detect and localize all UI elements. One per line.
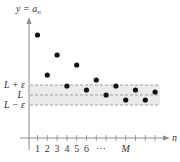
lower-bound-label: L − ε [3,99,25,110]
y-axis-arrow-icon [27,17,32,24]
data-point [104,92,109,97]
x-tick-label: M [121,143,131,154]
data-point [94,77,99,82]
x-tick-label: 1 [35,143,40,154]
x-tick-label: 3 [55,143,60,154]
data-point [123,97,128,102]
data-point [113,83,118,88]
x-axis-label: n [172,132,177,143]
x-axis-arrow-icon [163,136,170,141]
x-tick-label: 5 [74,143,79,154]
sequence-limit-chart: 123456⋯M y = an n L + ε L L − ε [0,0,180,162]
data-point [55,52,60,57]
data-point [74,62,79,67]
x-tick-label: ⋯ [96,143,106,154]
x-tick-label: 4 [64,143,69,154]
data-point [84,87,89,92]
x-tick-labels: 123456⋯M [35,143,131,154]
data-point [133,87,138,92]
data-point [64,83,69,88]
data-point [35,32,40,37]
y-axis-label: y = an [15,3,41,16]
x-tick-label: 6 [84,143,89,154]
x-tick-label: 2 [45,143,50,154]
data-point [143,97,148,102]
data-point [45,72,50,77]
data-point [153,89,158,94]
